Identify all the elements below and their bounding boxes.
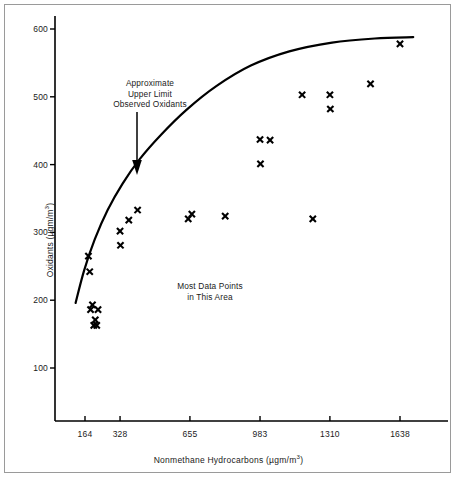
y-tick-label: 100 [18,363,48,373]
annotation-upper-limit-line-3: Observed Oxidants [96,99,204,110]
data-point-marker [397,41,403,47]
data-point-marker [299,92,305,98]
x-tick-label: 164 [78,429,93,439]
x-axis-title-text: Nonmethane Hydrocarbons (µgm/m [154,455,297,465]
y-tick-label: 300 [18,227,48,237]
data-point-marker [117,228,123,234]
axis-lines [55,16,448,421]
y-tick-label: 600 [18,24,48,34]
data-point-marker [310,216,316,222]
data-point-marker [87,269,93,275]
annotation-most-data: Most Data Points in This Area [152,281,268,302]
data-point-marker [222,213,228,219]
x-tick-label: 1638 [390,429,410,439]
y-axis-title: Oxidants (µgm/m3) [45,202,55,277]
chart-figure: 600500400300200100 16432865598313101638 … [0,0,457,479]
data-point-marker [257,161,263,167]
upper-limit-curve [76,37,414,303]
y-axis-title-tail: ) [45,202,55,205]
y-tick-label: 500 [18,92,48,102]
annotation-most-data-line-1: Most Data Points [152,281,268,292]
data-point-marker [257,136,263,142]
data-point-marker [134,207,140,213]
y-tick-label: 200 [18,295,48,305]
y-axis-title-exponent: 3 [43,205,50,209]
y-tick-label: 400 [18,160,48,170]
data-point-marker [327,106,333,112]
x-tick-label: 1310 [320,429,340,439]
data-point-marker [117,242,123,248]
x-tick-label: 328 [113,429,128,439]
x-axis-title-tail: ) [300,455,303,465]
x-axis-title: Nonmethane Hydrocarbons (µgm/m3) [0,455,457,465]
upper-limit-curve-path [76,37,414,303]
data-point-marker [327,92,333,98]
annotation-upper-limit: Approximate Upper Limit Observed Oxidant… [96,78,204,110]
plot-canvas [0,0,457,479]
annotation-upper-limit-line-1: Approximate [96,78,204,89]
data-point-marker [189,211,195,217]
annotation-upper-limit-line-2: Upper Limit [96,89,204,100]
data-point-marker [367,81,373,87]
data-point-marker [267,137,273,143]
data-point-marker [92,317,98,323]
data-point-marker [126,217,132,223]
x-tick-label: 655 [183,429,198,439]
x-tick-label: 983 [253,429,268,439]
y-axis-title-text: Oxidants (µgm/m [45,209,55,277]
annotation-most-data-line-2: in This Area [152,292,268,303]
data-point-marker [95,307,101,313]
